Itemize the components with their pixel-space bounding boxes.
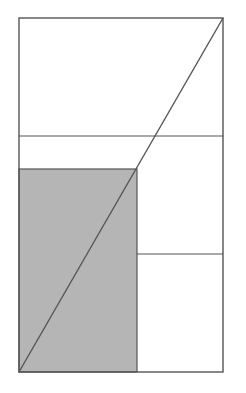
geometric-diagram [0,0,246,393]
